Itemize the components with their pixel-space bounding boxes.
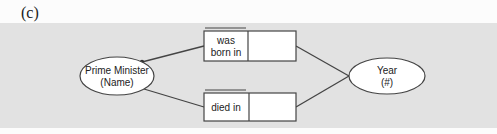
entity-year-name: Year: [377, 65, 398, 76]
entity-prime-minister[interactable]: Prime Minister (Name): [80, 57, 154, 95]
fact-type-born[interactable]: was born in: [204, 28, 296, 61]
entity-year[interactable]: Year (#): [349, 58, 425, 94]
connector-pm-born: [142, 46, 204, 62]
entity-prime-minister-type: (Name): [100, 77, 133, 88]
connector-born-year: [296, 46, 349, 76]
fact-type-died-label: died in: [211, 102, 240, 113]
entity-prime-minister-name: Prime Minister: [85, 65, 150, 76]
connector-died-year: [296, 76, 349, 107]
connector-pm-died: [144, 89, 204, 107]
entity-year-type: (#): [381, 77, 393, 88]
orm-diagram: Prime Minister (Name) Year (#) was born …: [0, 0, 497, 134]
fact-type-died[interactable]: died in: [204, 90, 296, 121]
fact-type-born-label-line1: was: [216, 35, 235, 46]
fact-type-born-label-line2: born in: [211, 47, 242, 58]
